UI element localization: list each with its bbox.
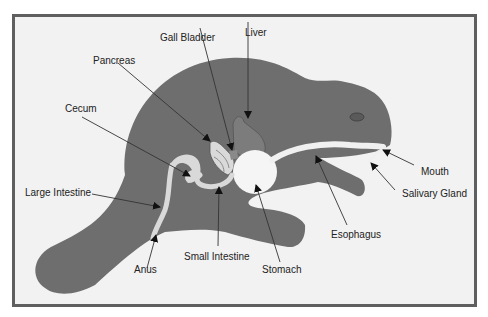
leader-mouth (383, 150, 414, 165)
leader-salivary-gland (371, 163, 395, 190)
label-stomach: Stomach (262, 264, 301, 276)
label-small-intestine: Small Intestine (184, 251, 250, 263)
eye (350, 113, 364, 121)
label-pancreas: Pancreas (93, 55, 135, 67)
label-large-intestine: Large Intestine (25, 187, 91, 199)
label-salivary-gland: Salivary Gland (402, 188, 467, 200)
stomach (233, 150, 277, 194)
label-esophagus: Esophagus (331, 229, 381, 241)
label-liver: Liver (245, 27, 267, 39)
label-mouth: Mouth (421, 166, 449, 178)
label-gall-bladder: Gall Bladder (160, 32, 215, 44)
beaver-illustration (0, 0, 488, 317)
label-cecum: Cecum (65, 103, 97, 115)
label-anus: Anus (134, 264, 157, 276)
